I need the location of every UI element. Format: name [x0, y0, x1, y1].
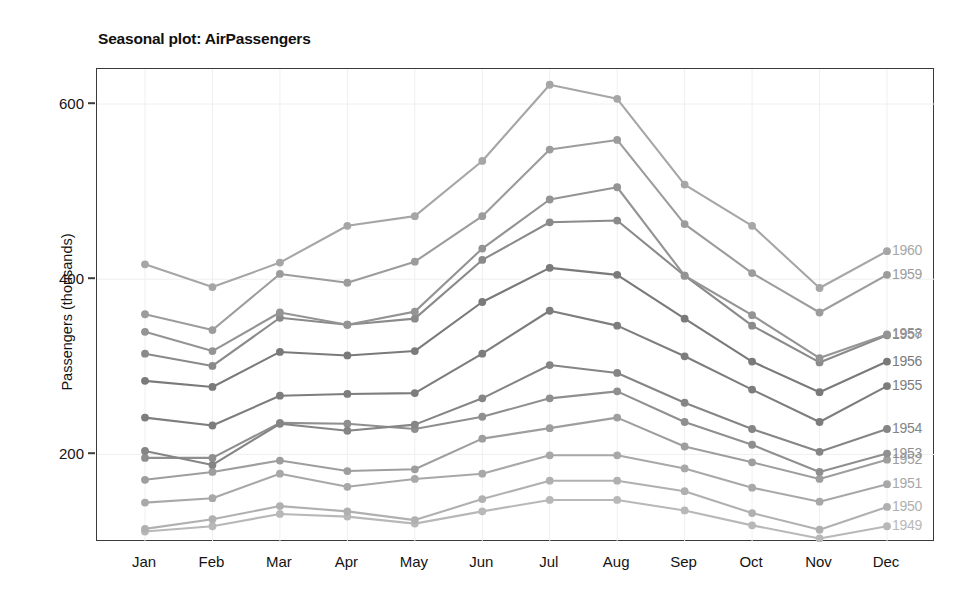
- data-point: [546, 81, 554, 89]
- data-point: [883, 331, 891, 339]
- data-point: [816, 448, 824, 456]
- data-point: [478, 256, 486, 264]
- data-point: [141, 499, 149, 507]
- series-line: [145, 365, 887, 465]
- x-tick-label-oct: Oct: [739, 553, 762, 570]
- data-point: [546, 196, 554, 204]
- data-point: [209, 283, 217, 291]
- data-point: [546, 361, 554, 369]
- data-point: [613, 496, 621, 504]
- series-1959: [141, 136, 891, 334]
- data-point: [883, 522, 891, 530]
- data-point: [209, 454, 217, 462]
- data-point: [209, 347, 217, 355]
- x-tick-label-nov: Nov: [805, 553, 832, 570]
- data-point: [141, 328, 149, 336]
- data-point: [478, 435, 486, 443]
- data-point: [411, 315, 419, 323]
- data-point: [343, 352, 351, 360]
- data-point: [478, 394, 486, 402]
- data-point: [209, 522, 217, 530]
- data-point: [546, 218, 554, 226]
- data-point: [546, 146, 554, 154]
- data-point: [546, 451, 554, 459]
- data-point: [141, 377, 149, 385]
- x-tick-label-sep: Sep: [670, 553, 697, 570]
- data-point: [141, 447, 149, 455]
- data-point: [209, 422, 217, 430]
- data-point: [681, 418, 689, 426]
- data-point: [883, 503, 891, 511]
- series-1954: [141, 361, 891, 469]
- data-point: [276, 510, 284, 518]
- data-point: [883, 247, 891, 255]
- data-point: [141, 260, 149, 268]
- series-1960: [141, 81, 891, 292]
- data-point: [613, 271, 621, 279]
- series-1952: [141, 414, 891, 484]
- data-point: [209, 515, 217, 523]
- data-point: [681, 272, 689, 280]
- data-point: [343, 390, 351, 398]
- series-line: [145, 140, 887, 330]
- y-tick-label: 200: [38, 445, 84, 462]
- data-point: [478, 212, 486, 220]
- data-point: [681, 220, 689, 228]
- series-line: [145, 85, 887, 288]
- data-point: [613, 322, 621, 330]
- data-point: [209, 461, 217, 469]
- series-1957: [141, 217, 891, 370]
- data-point: [343, 467, 351, 475]
- data-point: [546, 477, 554, 485]
- data-point: [343, 420, 351, 428]
- data-point: [681, 352, 689, 360]
- data-point: [816, 354, 824, 362]
- data-point: [276, 392, 284, 400]
- data-point: [546, 424, 554, 432]
- data-point: [411, 308, 419, 316]
- data-point: [748, 484, 756, 492]
- x-tick-label-jun: Jun: [469, 553, 493, 570]
- data-point: [209, 494, 217, 502]
- x-tick-label-aug: Aug: [603, 553, 630, 570]
- data-point: [411, 212, 419, 220]
- data-point: [276, 309, 284, 317]
- data-point: [883, 480, 891, 488]
- data-point: [411, 389, 419, 397]
- data-point: [816, 498, 824, 506]
- data-point: [478, 470, 486, 478]
- data-point: [478, 507, 486, 515]
- data-point: [209, 362, 217, 370]
- y-tick-mark: [88, 453, 95, 455]
- data-point: [546, 264, 554, 272]
- data-point: [681, 487, 689, 495]
- data-point: [411, 421, 419, 429]
- data-point: [681, 443, 689, 451]
- series-line: [145, 418, 887, 480]
- series-1953: [141, 387, 891, 475]
- data-point: [411, 465, 419, 473]
- x-tick-label-mar: Mar: [266, 553, 292, 570]
- y-tick-mark: [88, 277, 95, 279]
- data-point: [816, 284, 824, 292]
- data-point: [883, 358, 891, 366]
- data-point: [411, 258, 419, 266]
- x-tick-label-apr: Apr: [335, 553, 358, 570]
- data-point: [613, 136, 621, 144]
- data-point: [276, 420, 284, 428]
- data-point: [613, 95, 621, 103]
- data-point: [748, 521, 756, 529]
- data-point: [748, 311, 756, 319]
- data-point: [546, 394, 554, 402]
- x-tick-label-dec: Dec: [873, 553, 900, 570]
- data-point: [411, 516, 419, 524]
- data-point: [748, 358, 756, 366]
- data-point: [748, 222, 756, 230]
- data-point: [883, 271, 891, 279]
- data-point: [343, 321, 351, 329]
- data-point: [613, 217, 621, 225]
- data-point: [478, 413, 486, 421]
- data-point: [209, 468, 217, 476]
- data-point: [816, 468, 824, 476]
- data-point: [478, 350, 486, 358]
